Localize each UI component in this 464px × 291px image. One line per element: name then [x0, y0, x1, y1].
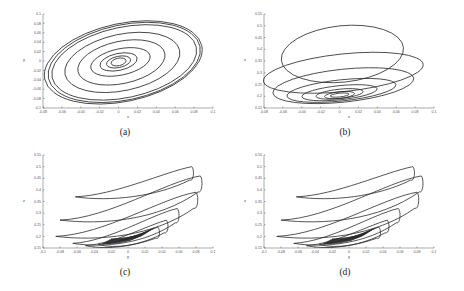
trajectory-loop — [301, 82, 378, 104]
y-axis-label: z — [244, 57, 246, 62]
y-tick-label: 0.4 — [257, 188, 262, 192]
figure: -0.08-0.06-0.04-0.0200.020.040.060.080.1… — [0, 0, 464, 291]
x-axis-label: x — [127, 114, 129, 119]
x-axis-label: y — [127, 254, 129, 259]
trajectory-loop — [41, 10, 208, 116]
y-tick-label: -0.04 — [33, 78, 41, 82]
caption-c: (c) — [120, 267, 131, 278]
trajectory-loop — [281, 176, 423, 222]
x-tick-label: 0.02 — [363, 250, 370, 254]
x-axis-label: y — [348, 254, 350, 259]
x-tick-label: 0.08 — [191, 110, 198, 114]
y-axis-label: z — [244, 198, 246, 203]
x-axis-label: x — [348, 114, 350, 119]
trajectory-loop — [59, 23, 185, 103]
y-tick-label: -0.08 — [33, 97, 41, 101]
x-tick-label: -0.08 — [260, 110, 268, 114]
y-tick-label: -0.1 — [35, 106, 41, 110]
x-tick-label: 0.04 — [159, 250, 166, 254]
panel-c: -0.1-0.08-0.06-0.04-0.0200.020.040.060.0… — [23, 153, 216, 259]
trajectory-loop — [56, 192, 198, 238]
x-tick-label: 0.02 — [355, 110, 362, 114]
panel-b: -0.08-0.06-0.04-0.0200.020.040.060.080.1… — [244, 12, 437, 119]
trajectory-loop — [262, 46, 426, 100]
y-tick-label: 0.35 — [255, 200, 262, 204]
x-tick-label: 0.04 — [374, 110, 381, 114]
x-tick-label: -0.04 — [77, 110, 85, 114]
caption-d: (d) — [339, 267, 350, 278]
y-axis-label: z — [23, 198, 25, 203]
y-tick-label: 0.15 — [255, 246, 262, 250]
trajectory-loop — [75, 167, 193, 199]
y-tick-label: 0.2 — [257, 94, 262, 98]
x-tick-label: -0.08 — [56, 250, 64, 254]
y-tick-label: 0.06 — [34, 31, 41, 35]
y-tick-label: 0.4 — [36, 188, 41, 192]
x-tick-label: 0.1 — [432, 110, 437, 114]
x-tick-label: -0.06 — [73, 250, 81, 254]
x-tick-label: -0.06 — [58, 110, 66, 114]
x-tick-label: 0.02 — [142, 250, 149, 254]
x-tick-label: -0.02 — [328, 250, 336, 254]
y-tick-label: 0.2 — [257, 235, 262, 239]
y-tick-label: 0.45 — [255, 36, 262, 40]
y-tick-label: 0.5 — [257, 165, 262, 169]
y-tick-label: 0.45 — [34, 176, 41, 180]
x-tick-label: 0.08 — [414, 250, 421, 254]
y-tick-label: 0.35 — [255, 59, 262, 63]
trajectory-loop — [296, 167, 414, 199]
x-tick-label: 0.02 — [134, 110, 141, 114]
y-tick-label: 0.55 — [255, 12, 262, 16]
trajectory-loop — [60, 176, 202, 222]
x-tick-label: 0.06 — [393, 110, 400, 114]
x-tick-label: 0 — [118, 110, 120, 114]
x-tick-label: -0.1 — [261, 250, 267, 254]
y-tick-label: 0.1 — [36, 12, 41, 16]
x-tick-label: -0.08 — [39, 110, 47, 114]
x-tick-label: 0.1 — [211, 110, 216, 114]
y-tick-label: 0.3 — [257, 71, 262, 75]
x-tick-label: 0.1 — [211, 250, 216, 254]
x-tick-label: -0.02 — [317, 110, 325, 114]
y-tick-label: 0.55 — [34, 153, 41, 157]
y-tick-label: 0.3 — [257, 211, 262, 215]
y-tick-label: 0.25 — [255, 83, 262, 87]
y-tick-label: 0.5 — [36, 165, 41, 169]
y-tick-label: 0.25 — [255, 223, 262, 227]
x-tick-label: 0.06 — [172, 110, 179, 114]
x-tick-label: 0 — [339, 110, 341, 114]
y-tick-label: 0.15 — [34, 246, 41, 250]
y-tick-label: -0.02 — [33, 69, 41, 73]
x-tick-label: 0.06 — [176, 250, 183, 254]
x-tick-label: 0.08 — [193, 250, 200, 254]
x-tick-label: -0.1 — [40, 250, 46, 254]
y-tick-label: 0.55 — [255, 153, 262, 157]
x-tick-label: -0.06 — [294, 250, 302, 254]
y-tick-label: 0.5 — [257, 24, 262, 28]
x-tick-label: 0.04 — [153, 110, 160, 114]
y-tick-label: 0.15 — [255, 106, 262, 110]
y-tick-label: 0.02 — [34, 50, 41, 54]
x-tick-label: -0.06 — [279, 110, 287, 114]
panel-d: -0.1-0.08-0.06-0.04-0.0200.020.040.060.0… — [244, 153, 437, 259]
x-tick-label: -0.02 — [96, 110, 104, 114]
x-tick-label: -0.04 — [90, 250, 98, 254]
y-tick-label: 0.25 — [34, 223, 41, 227]
x-tick-label: -0.04 — [311, 250, 319, 254]
y-tick-label: 0.04 — [34, 40, 41, 44]
caption-b: (b) — [339, 127, 350, 138]
y-tick-label: 0 — [39, 59, 41, 63]
x-tick-label: -0.04 — [298, 110, 306, 114]
x-tick-label: 0.1 — [432, 250, 437, 254]
x-tick-label: 0.04 — [380, 250, 387, 254]
y-tick-label: 0.2 — [36, 235, 41, 239]
x-tick-label: -0.08 — [277, 250, 285, 254]
panel-a: -0.08-0.06-0.04-0.0200.020.040.060.080.1… — [23, 8, 216, 119]
trajectory-loop — [88, 43, 153, 81]
y-tick-label: 0.35 — [34, 200, 41, 204]
trajectory-loop — [74, 32, 170, 92]
y-tick-label: 0.08 — [34, 22, 41, 26]
x-tick-label: 0.08 — [412, 110, 419, 114]
y-tick-label: 0.3 — [36, 211, 41, 215]
x-tick-label: 0.06 — [397, 250, 404, 254]
